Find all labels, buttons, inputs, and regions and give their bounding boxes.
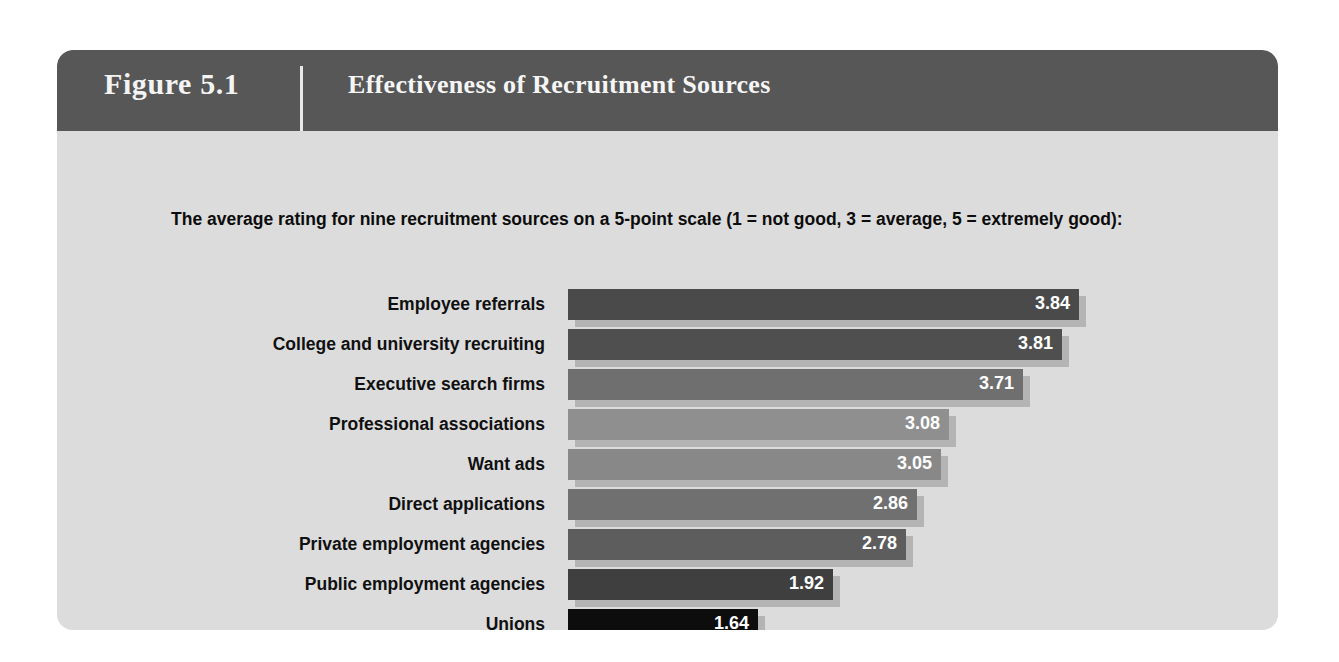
bar-category-label: Professional associations [329, 414, 545, 435]
bar-value-label: 3.08 [905, 413, 940, 434]
bar-track: 3.05 [568, 449, 941, 480]
figure-body: The average rating for nine recruitment … [57, 131, 1278, 630]
bar-value-label: 1.64 [714, 613, 749, 630]
bar-row: Professional associations3.08 [57, 409, 1278, 449]
bar-category-label: Employee referrals [387, 294, 545, 315]
bar-value-label: 3.81 [1018, 333, 1053, 354]
bar-category-label: Want ads [468, 454, 545, 475]
bar-category-label: College and university recruiting [273, 334, 545, 355]
figure-subtitle: The average rating for nine recruitment … [171, 207, 1191, 232]
bar-row: College and university recruiting3.81 [57, 329, 1278, 369]
bar-row: Employee referrals3.84 [57, 289, 1278, 329]
bar-fill: 3.84 [568, 289, 1079, 320]
bar-value-label: 3.84 [1035, 293, 1070, 314]
bar-row: Public employment agencies1.92 [57, 569, 1278, 609]
bar-value-label: 2.78 [862, 533, 897, 554]
figure-number: Figure 5.1 [104, 67, 239, 101]
bar-category-label: Executive search firms [354, 374, 545, 395]
bar-value-label: 1.92 [789, 573, 824, 594]
bar-value-label: 2.86 [873, 493, 908, 514]
bar-track: 3.84 [568, 289, 1079, 320]
bar-fill: 3.71 [568, 369, 1023, 400]
bar-row: Want ads3.05 [57, 449, 1278, 489]
bar-category-label: Direct applications [388, 494, 545, 515]
bar-track: 1.64 [568, 609, 758, 630]
bar-track: 2.86 [568, 489, 917, 520]
bar-track: 1.92 [568, 569, 833, 600]
bar-value-label: 3.05 [897, 453, 932, 474]
bar-fill: 1.64 [568, 609, 758, 630]
figure-title: Effectiveness of Recruitment Sources [348, 70, 771, 100]
bar-track: 3.71 [568, 369, 1023, 400]
bar-row: Direct applications2.86 [57, 489, 1278, 529]
bar-row: Unions1.64 [57, 609, 1278, 630]
bar-row: Executive search firms3.71 [57, 369, 1278, 409]
bar-row: Private employment agencies2.78 [57, 529, 1278, 569]
bar-category-label: Private employment agencies [299, 534, 545, 555]
figure-header-bar: Figure 5.1 Effectiveness of Recruitment … [57, 50, 1278, 131]
bar-category-label: Public employment agencies [305, 574, 545, 595]
bar-track: 3.81 [568, 329, 1062, 360]
bar-fill: 3.05 [568, 449, 941, 480]
bar-fill: 2.78 [568, 529, 906, 560]
bar-fill: 1.92 [568, 569, 833, 600]
bar-chart: Employee referrals3.84College and univer… [57, 289, 1278, 630]
bar-track: 3.08 [568, 409, 949, 440]
bar-category-label: Unions [486, 614, 545, 630]
bar-value-label: 3.71 [979, 373, 1014, 394]
header-divider [300, 66, 303, 131]
bar-fill: 3.81 [568, 329, 1062, 360]
bar-fill: 2.86 [568, 489, 917, 520]
bar-track: 2.78 [568, 529, 906, 560]
figure-panel: Figure 5.1 Effectiveness of Recruitment … [57, 50, 1278, 630]
bar-fill: 3.08 [568, 409, 949, 440]
